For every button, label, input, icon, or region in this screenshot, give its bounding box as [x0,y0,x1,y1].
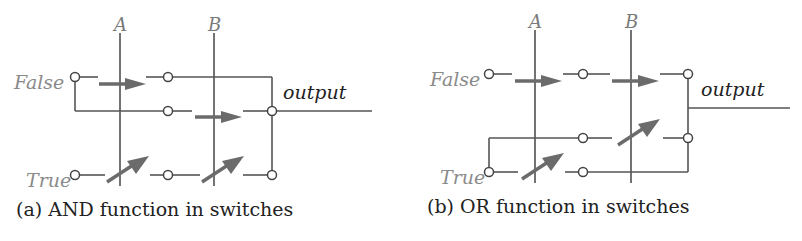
switch-arrow-icon [202,156,244,182]
terminal [579,168,588,177]
caption-and: (a) AND function in switches [16,198,293,220]
terminal-false [485,70,494,79]
terminal [579,134,588,143]
label-false: False [13,71,64,93]
label-output: output [283,81,347,103]
label-a: A [112,14,127,35]
terminal-true [485,168,494,177]
label-a: A [527,11,542,32]
terminal-output [268,107,277,116]
terminal-true [71,171,80,180]
switch-arrow-icon [195,111,242,123]
switch-logic-diagram: A B False output True (a) AND [0,0,802,241]
switch-arrow-icon [107,156,149,182]
terminal [268,171,277,180]
terminal-false [71,73,80,82]
label-output: output [701,78,765,100]
switch-arrow-icon [99,78,146,90]
switch-arrow-icon [612,75,659,87]
terminal [164,73,173,82]
terminal [164,171,173,180]
switch-arrow-icon [618,119,660,145]
switch-arrow-icon [515,75,562,87]
terminal [164,107,173,116]
terminal [684,70,693,79]
switch-arrow-icon [522,153,564,179]
caption-or: (b) OR function in switches [427,195,689,217]
panel-and: A B False output True (a) AND [13,14,372,220]
label-b: B [207,14,221,35]
label-false: False [429,68,480,90]
label-true: True [26,169,71,191]
label-true: True [440,166,485,188]
terminal [684,134,693,143]
panel-or: A B False output True (b [427,11,790,217]
terminal [579,70,588,79]
label-b: B [624,11,638,32]
